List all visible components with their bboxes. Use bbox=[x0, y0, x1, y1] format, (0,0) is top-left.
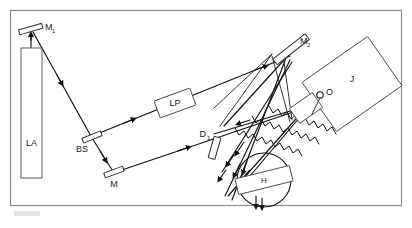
beam-arrow-bs-lp bbox=[124, 119, 134, 123]
element-lp-label: LP bbox=[169, 98, 180, 108]
figure-root: M 1 LA BS M LP D 1 M 2 bbox=[0, 0, 412, 228]
mirror-m1-sublabel: 1 bbox=[52, 28, 56, 34]
optical-setup-diagram: M 1 LA BS M LP D 1 M 2 bbox=[0, 0, 412, 228]
wavefront-1 bbox=[235, 128, 302, 156]
beamsplitter-bs-label: BS bbox=[76, 144, 88, 154]
plate-j[interactable] bbox=[302, 36, 402, 131]
beam-m2-triangle-upper bbox=[214, 54, 272, 108]
laser-la[interactable] bbox=[21, 48, 42, 178]
plate-j-label: J bbox=[350, 74, 355, 84]
element-d1-label: D bbox=[200, 129, 207, 139]
wavefront-2 bbox=[252, 116, 319, 144]
scan-artifact bbox=[14, 211, 40, 216]
mirror-m2-sublabel: 2 bbox=[307, 42, 311, 48]
beam-arrow-m1-bs bbox=[57, 75, 62, 84]
mirror-m-label: M bbox=[110, 179, 118, 189]
beamsplitter-bs[interactable] bbox=[82, 131, 102, 143]
objective-o-label: O bbox=[326, 87, 333, 97]
mirror-m[interactable] bbox=[104, 166, 125, 178]
beam-arrow-stray-left-2 bbox=[227, 155, 234, 165]
beam-arrow-m-d1 bbox=[178, 147, 189, 151]
beam-arrow-bs-m bbox=[100, 151, 106, 161]
laser-la-label: LA bbox=[26, 138, 37, 148]
holder-h-label: H bbox=[261, 176, 267, 185]
